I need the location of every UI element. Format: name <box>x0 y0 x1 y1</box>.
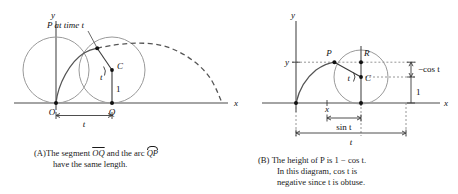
panel-a-base-t-label: t <box>83 119 86 129</box>
caption-panel-b: (B) The height of P is 1 − cos t. In thi… <box>258 155 444 189</box>
panel-a-x-axis-label: x <box>233 98 238 108</box>
panel-a-cycloid-solid <box>56 48 97 103</box>
panel-a-angle-arc <box>104 67 106 76</box>
panel-b-angle-arc <box>354 73 355 82</box>
panel-b-point-r-dot <box>359 60 363 64</box>
panel-a-point-c-label: C <box>117 61 124 71</box>
panel-a-cycloid-dashed <box>97 43 222 103</box>
caption-b-line1: (B) The height of P is 1 − cos t. <box>258 155 444 166</box>
panel-b-y-tick-label: y <box>284 57 289 67</box>
panel-b-point-c-dot <box>359 75 363 79</box>
caption-a-prefix: (A) <box>34 148 46 158</box>
caption-a-line2: have the same length. <box>34 159 210 170</box>
panel-a-point-q-label: Q <box>109 107 116 117</box>
panel-a-angle-t-label: t <box>100 72 103 82</box>
panel-a-callout-leader <box>88 31 96 47</box>
panel-b-point-p-label: P <box>325 48 332 58</box>
panel-a-point-o-dot <box>54 101 58 105</box>
panel-b-graphic: y y x P R C t −cos t 1 x sin t t <box>262 10 448 147</box>
caption-b-line3: negative since t is obtuse. <box>258 177 444 188</box>
panel-b-negcos-label: −cos t <box>418 64 440 74</box>
panel-a-point-q-dot <box>110 101 114 105</box>
panel-a-graphic: y x P at time t O Q C t 1 t <box>14 10 238 129</box>
panel-b-origin-dot <box>294 101 298 105</box>
cycloid-figure: .axis { stroke:#4a4a4a; stroke-width:1.1… <box>0 0 458 194</box>
panel-b-point-r-label: R <box>363 48 370 58</box>
panel-b-angle-t-label: t <box>347 73 350 83</box>
caption-a-arc-qp: QP <box>147 148 158 158</box>
panel-a-point-o-label: O <box>49 107 56 117</box>
panel-b-contact-dot <box>359 101 363 105</box>
caption-a-segment-oq: OQ <box>92 148 104 158</box>
panel-b-x-axis-label: x <box>443 98 448 108</box>
panel-b-one-label: 1 <box>416 87 421 97</box>
caption-a-text-a: The segment <box>46 148 92 158</box>
panel-a-p-callout-label: P at time t <box>46 20 85 30</box>
caption-b-line2: In this diagram, cos t is <box>258 166 444 177</box>
panel-b-base-t-label: t <box>350 137 353 147</box>
caption-panel-a: (A)The segment OQ and the arc QP have th… <box>34 148 210 170</box>
caption-a-line1: (A)The segment OQ and the arc QP <box>34 148 210 159</box>
caption-b-line1-text: The height of P is 1 − cos t. <box>272 155 367 165</box>
panel-a-y-axis-label: y <box>50 10 55 20</box>
panel-a-spoke-cp <box>97 48 112 70</box>
panel-b-point-c-label: C <box>365 73 372 83</box>
panel-b-y-axis-label: y <box>290 10 295 20</box>
panel-b-cycloid-solid <box>296 62 334 103</box>
panel-b-point-p-dot <box>332 60 336 64</box>
panel-a-point-c-dot <box>110 68 114 72</box>
caption-a-text-b: and the arc <box>105 148 147 158</box>
panel-a-point-p-dot <box>95 46 99 50</box>
caption-b-prefix: (B) <box>258 155 269 165</box>
panel-b-x-label: x <box>324 104 329 114</box>
panel-b-sint-label: sin t <box>336 122 352 132</box>
panel-a-radius-label: 1 <box>116 84 121 94</box>
